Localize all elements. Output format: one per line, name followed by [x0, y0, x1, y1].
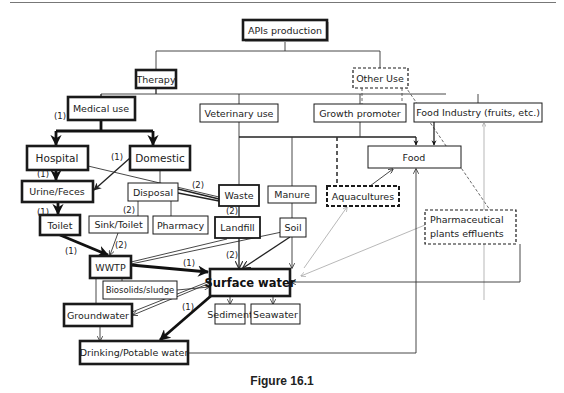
- svg-text:Biosolids/sludge: Biosolids/sludge: [106, 285, 175, 295]
- svg-text:Sediment: Sediment: [207, 309, 253, 320]
- node-pharmacy: Pharmacy: [153, 216, 208, 234]
- node-domestic: Domestic: [130, 146, 190, 170]
- svg-text:Medical use: Medical use: [73, 103, 129, 114]
- svg-text:(2): (2): [226, 250, 238, 260]
- svg-text:Sink/Toilet: Sink/Toilet: [94, 219, 143, 230]
- svg-text:Toilet: Toilet: [47, 220, 73, 231]
- svg-text:Drinking/Potable water: Drinking/Potable water: [80, 347, 189, 358]
- node-therapy: Therapy: [135, 70, 176, 88]
- figure-caption: Figure 16.1: [0, 374, 564, 388]
- svg-text:Food: Food: [403, 152, 426, 163]
- node-sediment: Sediment: [207, 304, 253, 324]
- svg-text:(2): (2): [192, 180, 204, 190]
- node-medical-use: Medical use: [68, 97, 135, 120]
- svg-text:APIs production: APIs production: [248, 25, 322, 36]
- node-urine-feces: Urine/Feces: [22, 181, 93, 202]
- svg-text:Pharmacy: Pharmacy: [157, 220, 205, 231]
- svg-text:Growth promoter: Growth promoter: [319, 108, 401, 119]
- svg-text:Hospital: Hospital: [36, 152, 79, 164]
- svg-text:(1): (1): [182, 302, 194, 312]
- svg-text:(1): (1): [54, 111, 66, 121]
- node-biosolids-sludge: Biosolids/sludge: [103, 281, 177, 299]
- svg-text:Therapy: Therapy: [135, 74, 175, 85]
- node-manure: Manure: [268, 186, 316, 203]
- node-landfill: Landfill: [215, 217, 260, 238]
- node-food: Food: [368, 146, 461, 168]
- node-waste: Waste: [219, 185, 259, 206]
- svg-text:(1): (1): [37, 207, 49, 217]
- svg-text:Landfill: Landfill: [220, 222, 254, 233]
- node-sink-toilet: Sink/Toilet: [89, 216, 148, 233]
- node-surface-water: Surface water: [205, 269, 296, 296]
- node-pharmaceutical-plants-effluents: Pharmaceutical plants effluents: [425, 210, 516, 244]
- node-soil: Soil: [280, 218, 306, 237]
- api-flow-diagram: APIs production Therapy Other Use Medica…: [0, 0, 564, 393]
- node-aquacultures: Aquacultures: [327, 186, 399, 206]
- svg-text:Aquacultures: Aquacultures: [332, 191, 394, 202]
- svg-text:Waste: Waste: [224, 190, 253, 201]
- node-toilet: Toilet: [40, 215, 80, 235]
- node-other-use: Other Use: [353, 68, 408, 88]
- node-groundwater: Groundwater: [64, 304, 132, 326]
- node-wwtp: WWTP: [90, 256, 131, 278]
- node-hospital: Hospital: [27, 146, 88, 170]
- svg-text:plants effluents: plants effluents: [430, 228, 504, 239]
- svg-text:Groundwater: Groundwater: [67, 310, 129, 321]
- svg-text:(2): (2): [123, 205, 135, 215]
- svg-text:Veterinary use: Veterinary use: [205, 108, 274, 119]
- svg-text:Food Industry (fruits, etc.): Food Industry (fruits, etc.): [416, 107, 540, 118]
- node-apis-production: APIs production: [243, 20, 329, 42]
- svg-text:(2): (2): [115, 240, 127, 250]
- svg-text:Seawater: Seawater: [253, 309, 298, 320]
- node-drinking-potable-water: Drinking/Potable water: [80, 341, 189, 364]
- svg-text:(1): (1): [37, 169, 49, 179]
- svg-text:(1): (1): [183, 258, 195, 268]
- node-food-industry: Food Industry (fruits, etc.): [414, 103, 542, 122]
- svg-text:Urine/Feces: Urine/Feces: [29, 186, 84, 197]
- svg-text:(1): (1): [111, 152, 123, 162]
- svg-text:Domestic: Domestic: [135, 152, 185, 164]
- node-growth-promoter: Growth promoter: [314, 104, 406, 122]
- svg-text:Manure: Manure: [274, 189, 310, 200]
- svg-text:Surface water: Surface water: [205, 276, 296, 290]
- svg-text:Other Use: Other Use: [356, 73, 404, 84]
- svg-text:Soil: Soil: [284, 222, 301, 233]
- svg-text:Disposal: Disposal: [133, 187, 173, 198]
- svg-text:Pharmaceutical: Pharmaceutical: [430, 214, 504, 225]
- svg-text:WWTP: WWTP: [95, 262, 126, 273]
- svg-text:(2): (2): [226, 206, 238, 216]
- node-disposal: Disposal: [128, 183, 178, 201]
- node-seawater: Seawater: [251, 304, 300, 324]
- node-veterinary-use: Veterinary use: [200, 104, 278, 122]
- svg-text:(1): (1): [65, 246, 77, 256]
